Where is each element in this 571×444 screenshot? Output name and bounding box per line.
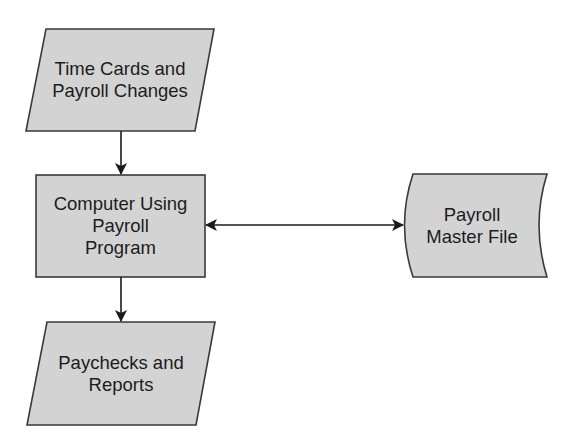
- process-node-label: Computer Using Payroll Program: [36, 175, 205, 277]
- master-file-node-label: Payroll Master File: [405, 174, 539, 277]
- input-node-label: Time Cards and Payroll Changes: [30, 29, 210, 131]
- output-node-label: Paychecks and Reports: [31, 322, 211, 425]
